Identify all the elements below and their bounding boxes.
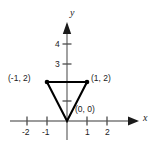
point-label-left-vertex: (-1, 2) [8,74,31,83]
x-tick-label-minus2: -2 [22,128,30,137]
y-axis-arrowhead [63,22,71,34]
y-tick-label-3: 3 [55,60,60,69]
x-tick-label-2: 2 [105,128,110,137]
vertex-dot-left [45,80,50,85]
x-axis-arrowhead [128,117,139,126]
y-axis-label: y [70,8,74,18]
vertex-dot-right [85,80,90,85]
point-label-bottom-vertex: (0, 0) [75,105,95,114]
x-tick-label-minus1: -1 [42,128,50,137]
y-tick-label-4: 4 [55,40,60,49]
x-axis-label: x [143,113,147,123]
coordinate-plane-figure: y x -2 -1 1 2 4 3 (-1, 2) (1, 2) (0, 0) [0,0,152,148]
point-label-right-vertex: (1, 2) [91,74,111,83]
x-tick-label-1: 1 [85,128,90,137]
